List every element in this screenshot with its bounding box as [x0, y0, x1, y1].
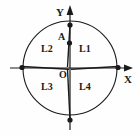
geometry-canvas — [0, 0, 140, 136]
point-label-a: A — [58, 32, 65, 42]
x-axis-arrow-icon — [124, 65, 133, 72]
point-marker-circle-right — [115, 65, 120, 70]
origin-label: O — [59, 70, 67, 80]
geometry-figure: Y X O A L1 L2 L3 L4 — [0, 0, 140, 136]
region-label-l2: L2 — [41, 44, 53, 54]
point-marker-circle-left — [19, 65, 24, 70]
point-marker-a — [67, 40, 72, 45]
point-marker-circle-bottom — [67, 117, 72, 122]
region-label-l1: L1 — [79, 44, 91, 54]
region-label-l4: L4 — [79, 82, 91, 92]
point-marker-circle-top — [67, 22, 72, 27]
y-axis-arrow-icon — [67, 5, 74, 15]
x-axis-label: X — [124, 74, 132, 85]
region-label-l3: L3 — [41, 82, 53, 92]
y-axis-label: Y — [56, 7, 64, 18]
